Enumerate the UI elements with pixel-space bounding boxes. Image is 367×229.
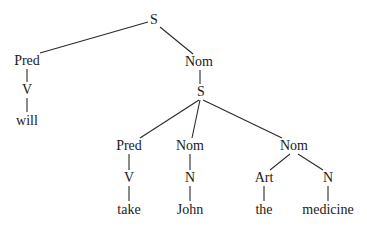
tree-node-v1: V — [22, 83, 32, 97]
tree-node-art: Art — [255, 171, 274, 185]
tree-node-will: will — [16, 114, 38, 128]
tree-node-pred1: Pred — [14, 54, 40, 68]
tree-edge — [140, 100, 199, 138]
tree-edge — [160, 27, 193, 54]
tree-node-medicine: medicine — [302, 203, 353, 217]
tree-node-v2: V — [124, 171, 134, 185]
syntax-tree-diagram: SPredVwillNomSPredVtakeNomNJohnNomArtthe… — [0, 0, 367, 229]
tree-node-take: take — [117, 203, 140, 217]
tree-edge — [270, 154, 290, 170]
tree-node-pred2: Pred — [116, 139, 142, 153]
tree-node-nom3: Nom — [280, 139, 308, 153]
tree-node-n1: N — [185, 171, 195, 185]
tree-node-nom1: Nom — [185, 55, 213, 69]
tree-node-s2: S — [197, 85, 205, 99]
tree-edge — [203, 100, 282, 138]
tree-node-john: John — [177, 203, 203, 217]
tree-edge — [192, 100, 200, 138]
tree-node-s1: S — [150, 13, 158, 27]
tree-edges — [0, 0, 367, 229]
tree-node-the: the — [255, 203, 272, 217]
tree-edge — [40, 22, 148, 53]
tree-node-n2: N — [323, 171, 333, 185]
tree-node-nom2: Nom — [176, 139, 204, 153]
tree-edge — [298, 154, 323, 170]
